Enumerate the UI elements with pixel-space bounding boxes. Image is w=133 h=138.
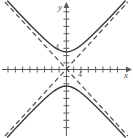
hyperbola-figure: y x 4 4 xyxy=(0,0,133,138)
y-axis-arrow-icon xyxy=(64,2,70,8)
y-axis-tick-label-4: 4 xyxy=(55,44,59,52)
coordinate-plot xyxy=(0,0,133,138)
y-axis-label: y xyxy=(58,3,62,12)
x-axis-tick-label-4: 4 xyxy=(78,71,82,79)
x-axis-label: x xyxy=(124,71,128,80)
